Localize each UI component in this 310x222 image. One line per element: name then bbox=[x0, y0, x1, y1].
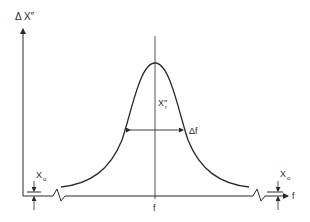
peak-label-subscript: r bbox=[165, 104, 167, 110]
x-axis-label: f bbox=[292, 191, 295, 201]
baseline-left bbox=[23, 189, 220, 201]
left-offset-label: X bbox=[36, 170, 42, 180]
resonance-diagram: Δ X″ f f X″ r Δf X o X o bbox=[0, 0, 310, 222]
bandwidth-label: Δf bbox=[189, 126, 198, 136]
right-offset-label: X bbox=[280, 169, 286, 179]
right-offset-label-subscript: o bbox=[287, 175, 291, 181]
left-offset-label-subscript: o bbox=[43, 176, 47, 182]
y-axis-label: Δ X″ bbox=[15, 11, 35, 22]
center-frequency-label: f bbox=[153, 203, 156, 213]
